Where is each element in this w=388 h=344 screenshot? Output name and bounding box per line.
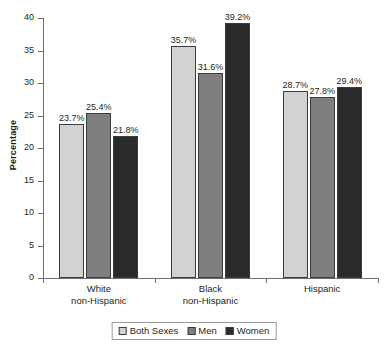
- y-axis-tick: 40: [38, 18, 43, 19]
- x-axis-category-label-line: non-Hispanic: [155, 295, 267, 307]
- bar: 23.7%: [59, 124, 84, 278]
- y-axis-tick-label: 15: [12, 175, 34, 185]
- y-axis-tick-label: 40: [12, 12, 34, 22]
- y-axis-tick-label: 25: [12, 110, 34, 120]
- legend-swatch-icon: [119, 327, 127, 335]
- bar-value-label: 28.7%: [282, 80, 308, 90]
- y-axis-tick-label: 10: [12, 207, 34, 217]
- x-axis-category-label-line: non-Hispanic: [43, 295, 155, 307]
- y-axis-tick: 20: [38, 148, 43, 149]
- y-axis-tick: 10: [38, 213, 43, 214]
- legend-item-label: Men: [198, 325, 216, 336]
- legend-item: Both Sexes: [119, 325, 179, 336]
- x-axis-tick: [378, 278, 379, 283]
- bar-value-label: 25.4%: [86, 102, 112, 112]
- legend-item-label: Women: [237, 325, 270, 336]
- plot-area: 0510152025303540 23.7%25.4%21.8%35.7%31.…: [43, 18, 378, 278]
- bar: 31.6%: [198, 73, 223, 278]
- bar-value-label: 39.2%: [225, 12, 251, 22]
- bar-value-label: 31.6%: [198, 62, 224, 72]
- bar: 27.8%: [310, 97, 335, 278]
- y-axis-tick: 25: [38, 116, 43, 117]
- legend-item: Women: [226, 325, 270, 336]
- x-axis-category-label-line: Hispanic: [266, 283, 378, 295]
- y-axis-line: [43, 18, 44, 279]
- y-axis-tick: 5: [38, 246, 43, 247]
- chart-legend: Both SexesMenWomen: [112, 322, 277, 340]
- legend-swatch-icon: [226, 327, 234, 335]
- legend-item-label: Both Sexes: [130, 325, 179, 336]
- bar-chart: Percentage 0510152025303540 23.7%25.4%21…: [0, 0, 388, 344]
- bar: 28.7%: [283, 91, 308, 278]
- y-axis-tick-label: 5: [12, 240, 34, 250]
- x-axis-category-label: Hispanic: [266, 283, 378, 295]
- legend-item: Men: [187, 325, 216, 336]
- x-axis-category-label: Blacknon-Hispanic: [155, 283, 267, 307]
- bar: 21.8%: [113, 136, 138, 278]
- y-axis-tick: 30: [38, 83, 43, 84]
- bar-value-label: 23.7%: [59, 113, 85, 123]
- bar: 39.2%: [225, 23, 250, 278]
- bar-value-label: 27.8%: [309, 86, 335, 96]
- y-axis-tick-label: 35: [12, 45, 34, 55]
- x-axis-line: [43, 278, 378, 279]
- y-axis-tick: 15: [38, 181, 43, 182]
- y-axis-tick-label: 0: [12, 272, 34, 282]
- y-axis-tick: 35: [38, 51, 43, 52]
- y-axis-tick-label: 20: [12, 142, 34, 152]
- bar: 25.4%: [86, 113, 111, 278]
- bar: 35.7%: [171, 46, 196, 278]
- bar-value-label: 29.4%: [336, 76, 362, 86]
- x-axis-category-label: Whitenon-Hispanic: [43, 283, 155, 307]
- legend-swatch-icon: [187, 327, 195, 335]
- bar: 29.4%: [337, 87, 362, 278]
- bar-value-label: 21.8%: [113, 125, 139, 135]
- y-axis-tick-label: 30: [12, 77, 34, 87]
- x-axis-category-label-line: Black: [155, 283, 267, 295]
- bar-value-label: 35.7%: [171, 35, 197, 45]
- x-axis-category-label-line: White: [43, 283, 155, 295]
